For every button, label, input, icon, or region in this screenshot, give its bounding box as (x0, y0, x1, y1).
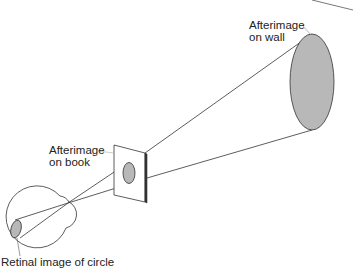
book-label-line1: Afterimage (49, 144, 105, 156)
eye (6, 186, 76, 248)
book-afterimage (123, 163, 135, 184)
top-edge-line (312, 0, 353, 10)
retinal-image (9, 219, 23, 239)
retina-label-text: Retinal image of circle (1, 256, 114, 268)
book-label-line2: on book (49, 156, 105, 168)
wall-label-line2: on wall (249, 31, 305, 43)
wall-label: Afterimage on wall (249, 19, 305, 43)
retina-label: Retinal image of circle (1, 256, 114, 268)
rays (15, 34, 312, 238)
wall-afterimage (290, 34, 334, 130)
retina-leader (17, 238, 20, 256)
book (114, 145, 147, 203)
wall-label-line1: Afterimage (249, 19, 305, 31)
book-label: Afterimage on book (49, 144, 105, 168)
